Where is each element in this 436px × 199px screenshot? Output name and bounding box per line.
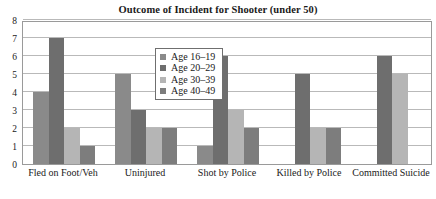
x-tick-label: Uninjured	[104, 167, 186, 180]
legend-item: Age 40–49	[160, 86, 215, 98]
bar	[33, 92, 49, 164]
bar	[115, 74, 131, 164]
bar	[80, 146, 96, 164]
y-tick-label: 0	[12, 160, 17, 170]
bar	[49, 38, 65, 164]
legend-swatch-icon	[160, 54, 166, 60]
x-tick-label: Committed Suicide	[350, 167, 432, 180]
bar	[377, 56, 393, 164]
legend-item: Age 30–39	[160, 74, 215, 86]
legend-label: Age 30–39	[171, 75, 215, 85]
legend-label: Age 16–19	[171, 52, 215, 62]
legend-swatch-icon	[160, 65, 166, 71]
legend: Age 16–19Age 20–29Age 30–39Age 40–49	[155, 48, 223, 100]
bar-group	[361, 22, 423, 164]
y-tick-label: 5	[12, 70, 17, 80]
bar-group	[279, 22, 341, 164]
legend-label: Age 40–49	[171, 86, 215, 96]
x-tick-label: Fled on Foot/Veh	[22, 167, 104, 180]
bar	[146, 128, 162, 164]
x-tick-label: Killed by Police	[268, 167, 350, 180]
y-tick-label: 3	[12, 106, 17, 116]
bar	[131, 110, 147, 164]
plot-area: Age 16–19Age 20–29Age 30–39Age 40–49	[22, 21, 432, 165]
y-tick-label: 2	[12, 124, 17, 134]
bar	[162, 128, 178, 164]
legend-swatch-icon	[160, 88, 166, 94]
x-tick-label: Shot by Police	[186, 167, 268, 180]
y-tick-label: 6	[12, 52, 17, 62]
gridline	[23, 19, 431, 20]
y-tick-label: 4	[12, 88, 17, 98]
bar	[244, 128, 260, 164]
legend-label: Age 20–29	[171, 63, 215, 73]
legend-swatch-icon	[160, 77, 166, 83]
bar	[64, 128, 80, 164]
y-axis: 012345678	[0, 21, 20, 165]
bar	[392, 74, 408, 164]
y-tick-label: 7	[12, 34, 17, 44]
legend-item: Age 16–19	[160, 51, 215, 63]
bar	[326, 128, 342, 164]
y-tick-label: 8	[12, 16, 17, 26]
x-axis: Fled on Foot/VehUninjuredShot by PoliceK…	[22, 167, 432, 199]
bar	[228, 110, 244, 164]
bar	[197, 146, 213, 164]
y-tick-label: 1	[12, 142, 17, 152]
bars-layer	[23, 22, 431, 164]
bar-group	[33, 22, 95, 164]
bar	[295, 74, 311, 164]
bar	[310, 128, 326, 164]
legend-item: Age 20–29	[160, 63, 215, 75]
bar-chart: Outcome of Incident for Shooter (under 5…	[0, 0, 436, 199]
chart-title: Outcome of Incident for Shooter (under 5…	[0, 4, 436, 15]
